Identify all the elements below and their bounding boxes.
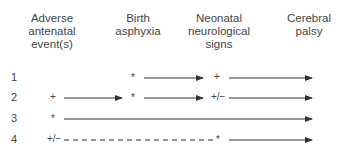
- arrows-layer: [0, 0, 342, 155]
